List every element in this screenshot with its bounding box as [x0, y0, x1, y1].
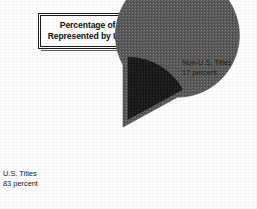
pie-label-nonus-name: Non-U.S. Titles [182, 58, 232, 67]
pie-label-nonus-titles: Non-U.S. Titles 17 percent [182, 58, 232, 77]
pie-label-nonus-value: 17 percent [182, 68, 232, 78]
pie-label-us-value: 83 percent [3, 179, 38, 189]
figure-canvas: Percentage of 1999 Total List Cost Repre… [0, 0, 257, 209]
pie-chart [0, 0, 257, 209]
pie-label-us-titles: U.S. Titles 83 percent [3, 169, 38, 188]
pie-chart-svg [0, 0, 257, 209]
pie-label-us-name: U.S. Titles [3, 169, 37, 178]
